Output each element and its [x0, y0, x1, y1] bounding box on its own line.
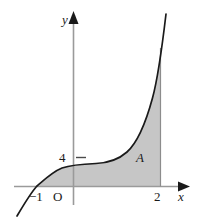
- y-axis-label: y: [62, 13, 68, 26]
- plot-canvas: [0, 0, 199, 220]
- shaded-region-A: [37, 48, 161, 187]
- x-tick-label-2: 2: [154, 190, 161, 203]
- y-axis-arrowhead: [69, 11, 79, 24]
- origin-label: O: [53, 190, 62, 203]
- y-tick-label-4: 4: [59, 151, 66, 164]
- x-axis-label: x: [178, 190, 184, 203]
- x-tick-label-neg1: −1: [29, 190, 43, 203]
- region-label-A: A: [136, 151, 144, 164]
- figure-container: y x 4 −1 O 2 A: [0, 0, 199, 220]
